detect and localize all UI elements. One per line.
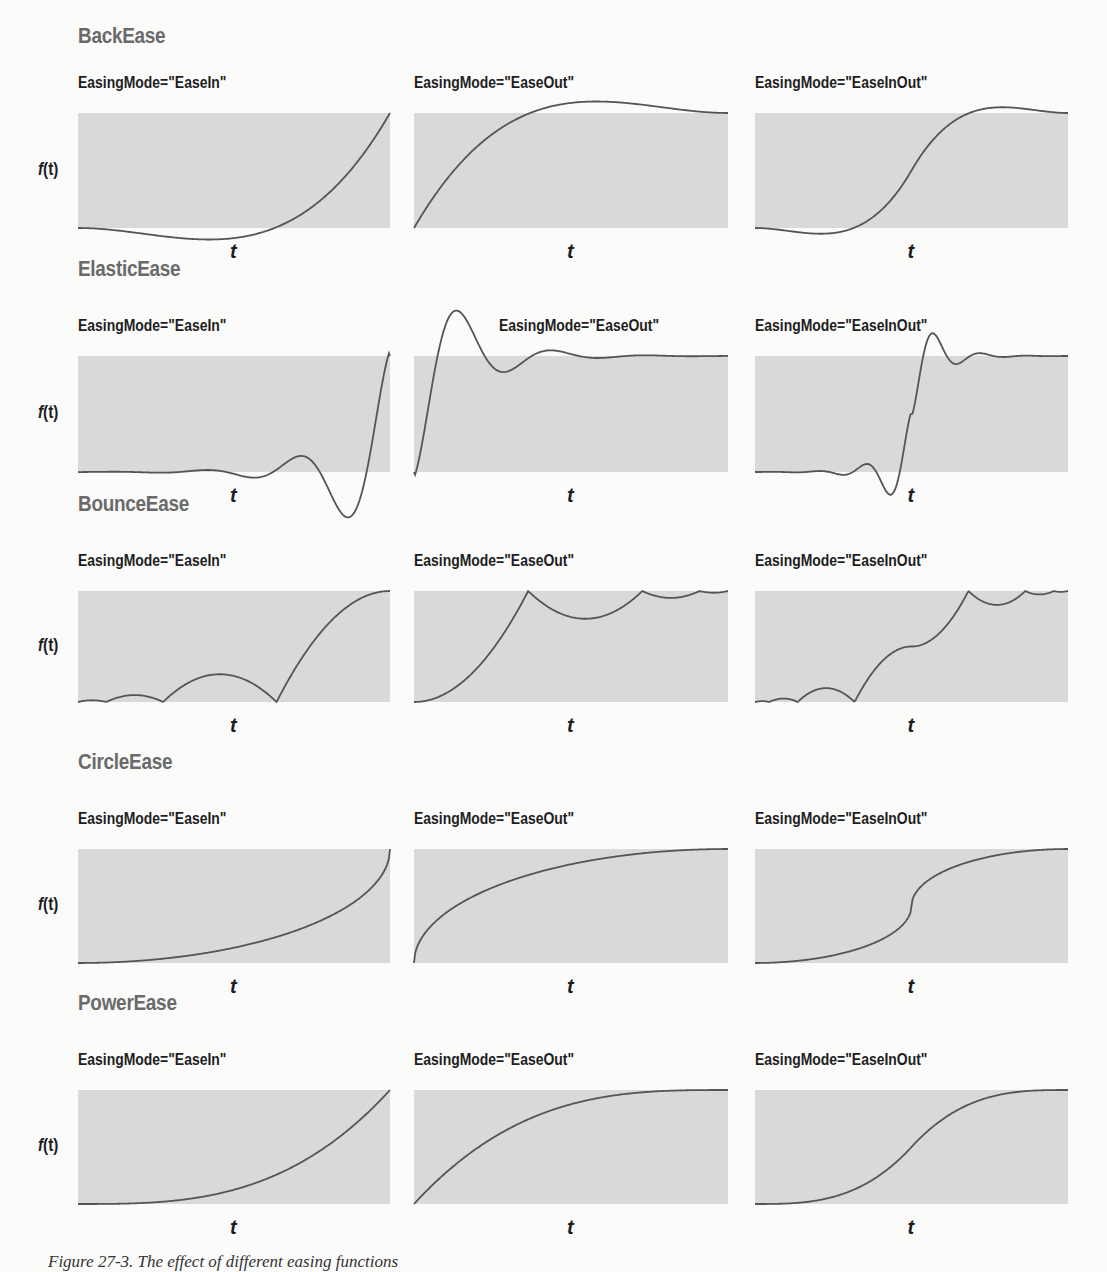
plot-area: [78, 356, 390, 472]
x-axis-label: t: [567, 240, 574, 263]
easing-mode-label: EasingMode="EaseIn": [78, 1050, 226, 1070]
easing-curve-plot: [414, 356, 728, 472]
easing-mode-label: EasingMode="EaseInOut": [755, 809, 927, 829]
easing-mode-label: EasingMode="EaseIn": [78, 551, 226, 571]
x-axis-label: t: [908, 1216, 915, 1239]
easing-mode-label: EasingMode="EaseInOut": [755, 1050, 927, 1070]
x-axis-label: t: [567, 975, 574, 998]
easing-mode-label: EasingMode="EaseOut": [414, 809, 574, 829]
section-title: BounceEase: [78, 491, 189, 517]
plot-area: [78, 113, 390, 228]
plot-area: [414, 1090, 728, 1204]
y-axis-label-arg: (t): [43, 635, 58, 655]
easing-mode-label: EasingMode="EaseOut": [414, 73, 574, 93]
plot-area: [78, 591, 390, 702]
x-axis-label: t: [230, 975, 237, 998]
section-title: PowerEase: [78, 990, 177, 1016]
easing-mode-label: EasingMode="EaseOut": [499, 316, 659, 336]
easing-mode-label: EasingMode="EaseIn": [78, 316, 226, 336]
easing-curve-plot: [78, 849, 390, 963]
section-title: ElasticEase: [78, 256, 180, 282]
y-axis-label-arg: (t): [43, 894, 58, 914]
easing-curve-plot: [414, 849, 728, 963]
easing-curve-plot: [755, 356, 1068, 472]
y-axis-label-arg: (t): [43, 159, 58, 179]
x-axis-label: t: [230, 1216, 237, 1239]
easing-mode-label: EasingMode="EaseOut": [414, 551, 574, 571]
easing-curve-plot: [755, 1090, 1068, 1204]
easing-curve-plot: [755, 591, 1068, 702]
y-axis-label: f(t): [38, 159, 58, 180]
x-axis-label: t: [567, 484, 574, 507]
easing-curve-plot: [78, 1090, 390, 1204]
y-axis-label: f(t): [38, 635, 58, 656]
easing-curve-plot: [414, 591, 728, 702]
x-axis-label: t: [908, 714, 915, 737]
plot-area: [78, 849, 390, 963]
x-axis-label: t: [567, 714, 574, 737]
easing-curve-plot: [414, 113, 728, 228]
x-axis-label: t: [908, 240, 915, 263]
easing-mode-label: EasingMode="EaseInOut": [755, 551, 927, 571]
easing-mode-label: EasingMode="EaseIn": [78, 809, 226, 829]
easing-mode-label: EasingMode="EaseInOut": [755, 316, 927, 336]
easing-curve-plot: [78, 591, 390, 702]
y-axis-label-arg: (t): [43, 1135, 58, 1155]
y-axis-label: f(t): [38, 402, 58, 423]
y-axis-label: f(t): [38, 894, 58, 915]
easing-curve-plot: [755, 849, 1068, 963]
plot-area: [414, 356, 728, 472]
easing-curve-plot: [755, 113, 1068, 228]
plot-area: [414, 849, 728, 963]
easing-curve-plot: [78, 113, 390, 228]
figure-caption: Figure 27-3. The effect of different eas…: [48, 1252, 398, 1272]
y-axis-label-arg: (t): [43, 402, 58, 422]
x-axis-label: t: [908, 484, 915, 507]
x-axis-label: t: [567, 1216, 574, 1239]
plot-area: [414, 113, 728, 228]
section-title: BackEase: [78, 23, 165, 49]
plot-area: [78, 1090, 390, 1204]
easing-mode-label: EasingMode="EaseIn": [78, 73, 226, 93]
x-axis-label: t: [230, 240, 237, 263]
easing-curve-plot: [78, 356, 390, 472]
easing-curve-plot: [414, 1090, 728, 1204]
y-axis-label: f(t): [38, 1135, 58, 1156]
x-axis-label: t: [230, 484, 237, 507]
x-axis-label: t: [908, 975, 915, 998]
easing-mode-label: EasingMode="EaseInOut": [755, 73, 927, 93]
section-title: CircleEase: [78, 749, 172, 775]
plot-area: [414, 591, 728, 702]
easing-mode-label: EasingMode="EaseOut": [414, 1050, 574, 1070]
x-axis-label: t: [230, 714, 237, 737]
